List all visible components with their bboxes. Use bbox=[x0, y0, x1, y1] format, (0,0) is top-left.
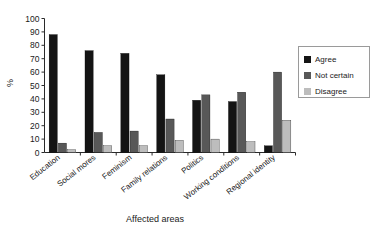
y-axis-tick-label: 60 bbox=[30, 67, 40, 77]
x-axis-category-label: Politics bbox=[180, 153, 206, 176]
x-axis-title: Affected areas bbox=[0, 214, 310, 224]
y-axis-tick-label: 100 bbox=[25, 14, 39, 24]
bar bbox=[228, 102, 236, 153]
bar bbox=[139, 146, 147, 153]
legend-item-agree: Agree bbox=[304, 52, 369, 67]
legend-swatch-icon bbox=[304, 56, 311, 63]
legend-label: Disagree bbox=[315, 88, 347, 96]
bar bbox=[94, 132, 102, 152]
legend-swatch-icon bbox=[304, 88, 311, 95]
y-axis-tick-label: 10 bbox=[30, 134, 40, 144]
legend-item-not-certain: Not certain bbox=[304, 68, 369, 83]
bar bbox=[157, 75, 165, 153]
bar bbox=[193, 100, 201, 152]
y-axis-tick-label: 90 bbox=[30, 27, 40, 37]
y-axis-title: % bbox=[5, 79, 15, 87]
bar bbox=[283, 120, 291, 152]
bar bbox=[166, 119, 174, 153]
bar bbox=[247, 142, 255, 153]
y-axis-tick-label: 0 bbox=[35, 148, 40, 158]
bar-chart: 0102030405060708090100EducationSocial mo… bbox=[0, 0, 377, 235]
legend-item-disagree: Disagree bbox=[304, 84, 369, 99]
bar bbox=[121, 53, 129, 152]
legend-label: Agree bbox=[315, 56, 336, 64]
legend-label: Not certain bbox=[315, 72, 354, 80]
x-axis-category-label: Feminism bbox=[101, 153, 134, 182]
bar bbox=[175, 140, 183, 152]
legend-swatch-icon bbox=[304, 72, 311, 79]
bar bbox=[85, 51, 93, 153]
x-axis-category-label: Social mores bbox=[56, 153, 98, 189]
bar bbox=[130, 131, 138, 152]
y-axis-tick-label: 30 bbox=[30, 107, 40, 117]
bar bbox=[273, 72, 281, 152]
chart-plot-area: 0102030405060708090100EducationSocial mo… bbox=[0, 0, 377, 235]
bar bbox=[49, 35, 57, 153]
bar bbox=[211, 139, 219, 152]
y-axis-tick-label: 50 bbox=[30, 81, 40, 91]
bar bbox=[264, 146, 272, 153]
bar bbox=[202, 95, 210, 153]
bar bbox=[238, 92, 246, 152]
x-axis-category-label: Education bbox=[28, 153, 62, 182]
y-axis-tick-label: 80 bbox=[30, 40, 40, 50]
chart-legend: Agree Not certain Disagree bbox=[298, 46, 370, 98]
bar bbox=[58, 143, 66, 152]
y-axis-tick-label: 20 bbox=[30, 121, 40, 131]
y-axis-tick-label: 40 bbox=[30, 94, 40, 104]
y-axis-tick-label: 70 bbox=[30, 54, 40, 64]
bar bbox=[103, 146, 111, 153]
bar bbox=[68, 150, 76, 153]
